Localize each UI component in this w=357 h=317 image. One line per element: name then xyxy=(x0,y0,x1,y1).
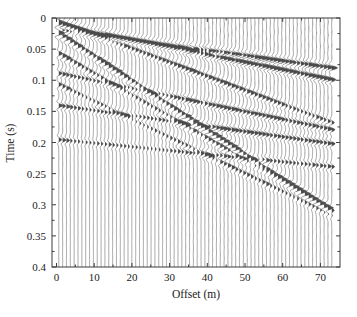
x-axis-tick-label: 10 xyxy=(89,271,101,283)
seismic-trace-positive-fill xyxy=(296,121,300,125)
seismic-trace-positive-fill xyxy=(170,61,174,65)
seismic-trace-wiggle xyxy=(168,18,177,267)
seismic-trace-wiggle xyxy=(105,18,114,267)
seismic-trace-positive-fill xyxy=(182,150,184,154)
seismic-trace-positive-fill xyxy=(265,114,270,119)
seismic-trace-wiggle xyxy=(277,18,287,267)
seismic-trace-wiggle xyxy=(194,18,203,267)
seismic-trace-positive-fill xyxy=(316,139,320,144)
seismic-trace-wiggle xyxy=(186,18,195,267)
seismic-trace-wiggle xyxy=(132,18,141,267)
seismic-trace-positive-fill xyxy=(304,162,307,167)
seismic-trace-wiggle xyxy=(156,18,164,267)
seismic-trace-positive-fill xyxy=(281,135,285,139)
seismic-trace-positive-fill xyxy=(304,62,308,66)
seismic-trace-positive-fill xyxy=(78,106,81,110)
seismic-trace-positive-fill xyxy=(308,123,312,128)
seismic-trace-wiggle xyxy=(269,18,280,267)
seismic-trace-wiggle xyxy=(128,18,137,267)
seismic-trace-positive-fill xyxy=(331,78,336,82)
seismic-trace-wiggle xyxy=(117,18,126,267)
seismic-trace-positive-fill xyxy=(120,44,122,47)
seismic-trace-positive-fill xyxy=(331,66,337,70)
seismic-trace-positive-fill xyxy=(62,138,66,142)
seismic-trace-positive-fill xyxy=(297,71,301,75)
y-axis-tick-label: 0.25 xyxy=(27,168,47,180)
seismic-trace-positive-fill xyxy=(235,85,239,89)
seismic-trace-positive-fill xyxy=(212,154,214,160)
seismic-trace-positive-fill xyxy=(62,72,66,76)
seismic-trace-wiggle xyxy=(282,18,291,267)
seismic-trace-wiggle xyxy=(286,18,296,267)
x-axis-tick-label: 60 xyxy=(277,271,289,283)
y-axis-title: Time (s) xyxy=(4,123,17,162)
seismic-trace-wiggle xyxy=(114,18,123,267)
seismic-shot-gather-figure: 01020304050607000.050.10.150.20.250.30.3… xyxy=(0,0,357,317)
seismic-trace-positive-fill xyxy=(212,49,216,53)
seismic-trace-positive-fill xyxy=(108,107,111,115)
seismic-trace-positive-fill xyxy=(74,106,77,110)
seismic-trace-wiggle xyxy=(124,18,134,267)
wiggle-plot-canvas: 01020304050607000.050.10.150.20.250.30.3… xyxy=(0,0,357,317)
seismic-trace-positive-fill xyxy=(266,182,270,187)
y-axis-tick-label: 0.05 xyxy=(27,43,47,55)
seismic-trace-positive-fill xyxy=(277,134,281,138)
seismic-trace-positive-fill xyxy=(235,167,238,171)
seismic-trace-wiggle xyxy=(109,18,118,267)
seismic-trace-positive-fill xyxy=(281,160,284,164)
y-axis-tick-label: 0.35 xyxy=(27,230,47,242)
y-axis-tick-label: 0.15 xyxy=(27,105,47,117)
seismic-trace-wiggle xyxy=(160,18,168,267)
seismic-trace-positive-fill xyxy=(85,49,90,54)
seismic-trace-wiggle xyxy=(273,18,283,267)
seismic-trace-wiggle xyxy=(164,18,173,267)
seismic-trace-positive-fill xyxy=(308,139,312,143)
seismic-trace-wiggle xyxy=(294,18,303,267)
seismic-trace-positive-fill xyxy=(293,119,297,124)
seismic-trace-positive-fill xyxy=(231,128,236,133)
seismic-trace-positive-fill xyxy=(116,111,120,116)
seismic-trace-positive-fill xyxy=(250,131,254,135)
seismic-trace-positive-fill xyxy=(104,78,107,84)
seismic-trace-positive-fill xyxy=(270,115,275,119)
seismic-trace-positive-fill xyxy=(258,113,262,117)
seismic-trace-positive-fill xyxy=(301,72,305,76)
seismic-trace-wiggle xyxy=(290,18,299,267)
seismic-trace-wiggle xyxy=(137,18,146,267)
x-axis-tick-label: 20 xyxy=(126,271,138,283)
seismic-trace-positive-fill xyxy=(143,100,146,105)
y-axis-tick-label: 0.1 xyxy=(32,74,46,86)
y-axis-tick-label: 0.3 xyxy=(32,199,46,211)
seismic-trace-positive-fill xyxy=(289,136,293,141)
x-axis-tick-label: 50 xyxy=(240,271,252,283)
seismic-trace-positive-fill xyxy=(58,52,62,56)
x-axis-tick-label: 40 xyxy=(202,271,214,283)
seismic-trace-positive-fill xyxy=(293,106,296,111)
seismic-traces-group xyxy=(55,18,338,267)
seismic-trace-positive-fill xyxy=(74,75,77,79)
seismic-trace-positive-fill xyxy=(162,118,165,122)
y-axis-tick-label: 0 xyxy=(41,12,47,24)
x-axis-tick-label: 70 xyxy=(315,271,327,283)
seismic-trace-positive-fill xyxy=(227,106,231,110)
seismic-trace-positive-fill xyxy=(324,126,328,130)
x-axis-title: Offset (m) xyxy=(172,288,220,301)
seismic-trace-positive-fill xyxy=(243,110,247,114)
y-axis-tick-label: 0.2 xyxy=(32,137,46,149)
seismic-trace-positive-fill xyxy=(301,110,303,114)
seismic-trace-positive-fill xyxy=(254,158,258,163)
seismic-trace-positive-fill xyxy=(204,49,209,57)
seismic-trace-positive-fill xyxy=(197,131,199,135)
seismic-trace-wiggle xyxy=(120,18,130,267)
seismic-trace-positive-fill xyxy=(312,124,317,128)
seismic-trace-positive-fill xyxy=(174,95,178,99)
seismic-trace-wiggle xyxy=(298,18,307,267)
seismic-trace-wiggle xyxy=(265,18,276,267)
seismic-trace-positive-fill xyxy=(274,100,278,104)
seismic-trace-wiggle xyxy=(189,18,199,267)
seismic-trace-positive-fill xyxy=(320,164,323,168)
seismic-trace-wiggle xyxy=(262,18,273,267)
x-axis-tick-label: 0 xyxy=(54,271,60,283)
x-axis-tick-label: 30 xyxy=(164,271,176,283)
y-axis-tick-label: 0.4 xyxy=(32,261,46,273)
